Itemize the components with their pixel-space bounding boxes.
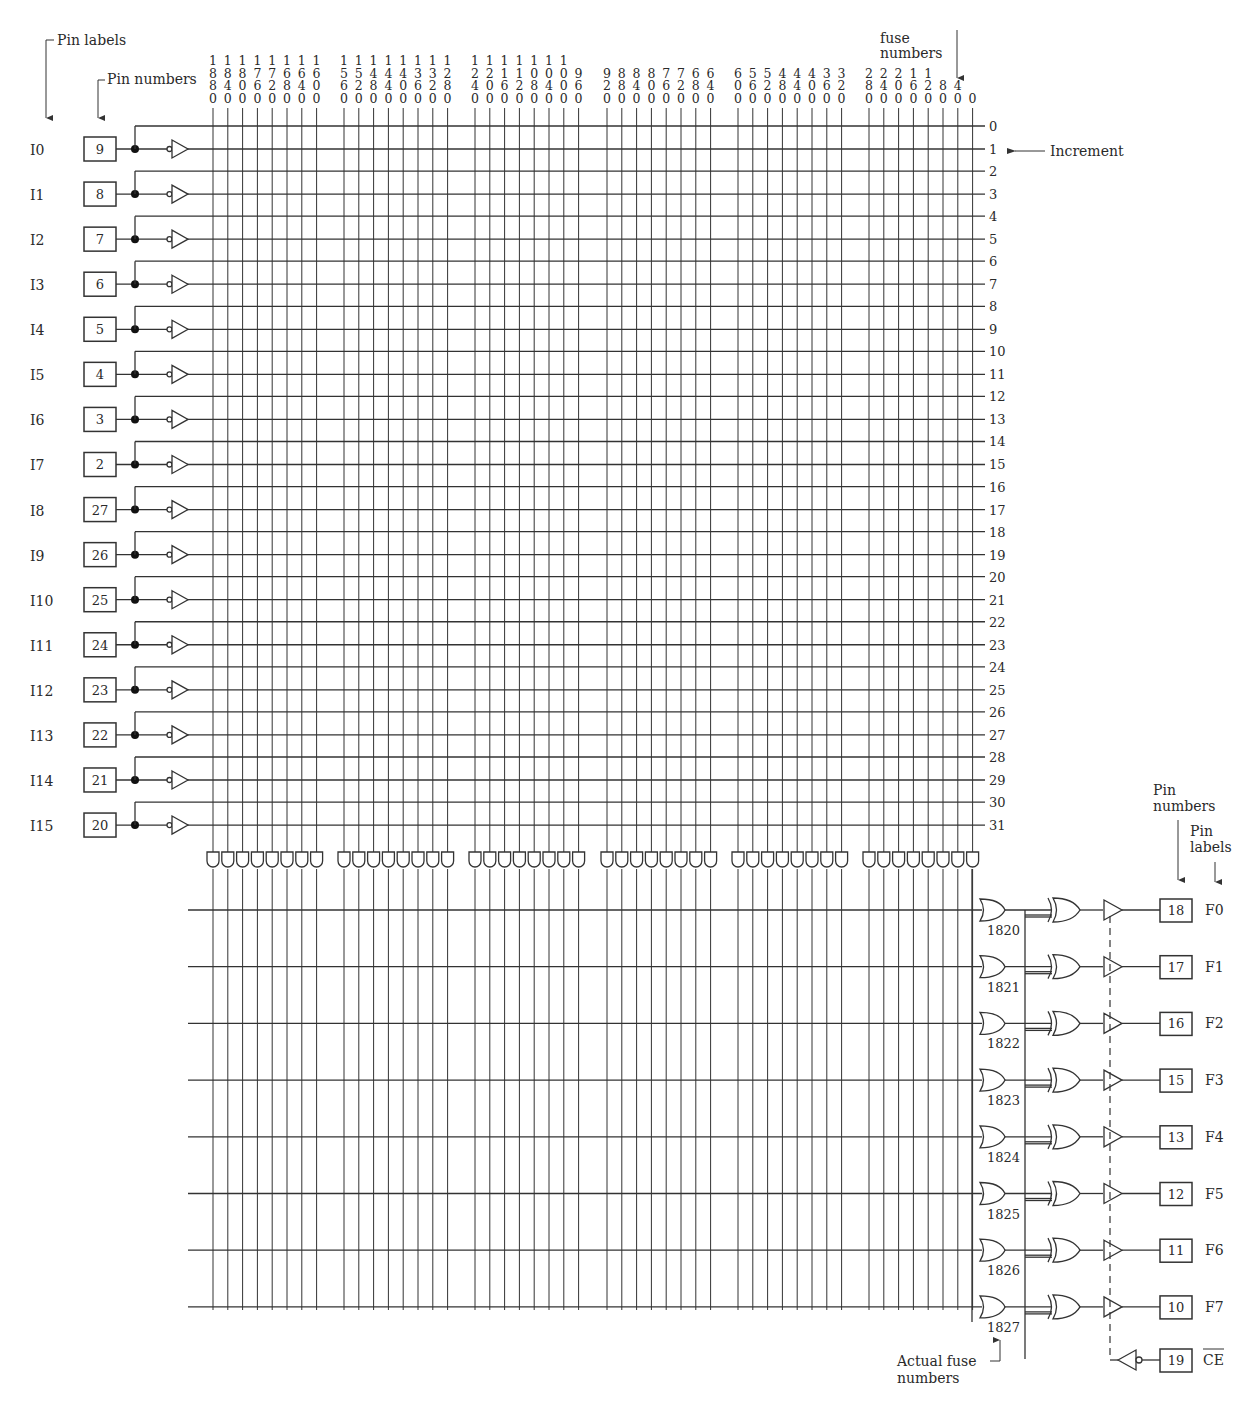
column-fuse-digit: 0 <box>239 91 247 106</box>
input-pin-row: I926 <box>30 532 188 567</box>
column-fuse-digit: 0 <box>209 91 217 106</box>
output-macrocell: 182315F3 <box>980 1068 1224 1108</box>
output-macrocell: 182117F1 <box>980 955 1224 995</box>
row-increment-label: 26 <box>989 705 1006 720</box>
xor-gate-icon <box>1053 898 1080 922</box>
row-increment-label: 8 <box>989 299 997 314</box>
input-pin-row: I27 <box>30 216 188 251</box>
buffer-triangle-icon <box>172 636 188 654</box>
column-fuse-label: 280280 <box>865 66 873 106</box>
tristate-buffer-icon <box>1104 1184 1122 1204</box>
input-pin-label: I7 <box>30 457 44 473</box>
input-pin-row: I54 <box>30 351 188 386</box>
column-fuse-digit: 0 <box>399 91 407 106</box>
column-fuse-label: 200200 <box>895 66 903 106</box>
and-gate-icon <box>952 852 964 867</box>
tristate-buffer-icon <box>1104 1240 1122 1260</box>
row-increment-label: 12 <box>989 389 1006 404</box>
inverter-bubble-icon <box>167 507 172 512</box>
actual-fuse-caption-line1: Actual fuse <box>896 1353 977 1369</box>
input-pin-row: I1322 <box>30 712 188 747</box>
column-fuse-numbers: 1880188018401840180018001760176017201720… <box>209 53 977 106</box>
or-fuse-number: 1825 <box>987 1207 1020 1222</box>
or-fuse-number: 1827 <box>987 1320 1020 1335</box>
column-fuse-digit: 0 <box>283 91 291 106</box>
and-gate-row <box>207 852 979 867</box>
output-pin-label: F2 <box>1205 1015 1224 1031</box>
and-gate-icon <box>705 852 717 867</box>
buffer-triangle-icon <box>172 816 188 834</box>
column-fuse-label: 400400 <box>808 66 816 106</box>
buffer-triangle-icon <box>172 365 188 383</box>
input-pin-label: I2 <box>30 232 44 248</box>
input-pin-row: I1025 <box>30 577 188 612</box>
and-gate-icon <box>806 852 818 867</box>
or-gate-icon <box>980 1069 1005 1091</box>
and-gate-icon <box>207 852 219 867</box>
input-pin-number: 4 <box>96 367 104 382</box>
column-fuse-digit: 0 <box>618 91 626 106</box>
column-fuse-label: 13201320 <box>429 53 437 106</box>
inverter-bubble-icon <box>167 823 172 828</box>
column-fuse-label: 18401840 <box>224 53 232 106</box>
column-fuse-label: 14001400 <box>399 53 407 106</box>
output-section: 182018F0182117F1182216F2182315F3182413F4… <box>972 869 1224 1372</box>
row-increment-label: 20 <box>989 570 1006 585</box>
column-fuse-digit: 0 <box>575 91 583 106</box>
buffer-triangle-icon <box>172 140 188 158</box>
input-pin-number: 23 <box>92 683 109 698</box>
column-fuse-label: 520520 <box>764 66 772 106</box>
and-gate-icon <box>631 852 643 867</box>
buffer-triangle-icon <box>172 681 188 699</box>
pin-labels-arrow-icon <box>46 40 54 118</box>
and-gate-icon <box>821 852 833 867</box>
column-fuse-label: 160160 <box>909 66 917 106</box>
output-pin-number: 13 <box>1168 1130 1185 1145</box>
and-gate-icon <box>573 852 585 867</box>
column-fuse-digit: 0 <box>384 91 392 106</box>
input-pin-row: I1223 <box>30 667 188 702</box>
actual-fuse-caption-line2: numbers <box>897 1370 959 1386</box>
input-pin-number: 3 <box>96 412 104 427</box>
inverter-bubble-icon <box>167 417 172 422</box>
ce-buffer-icon <box>1118 1350 1136 1370</box>
buffer-triangle-icon <box>172 501 188 519</box>
column-fuse-digit: 0 <box>355 91 363 106</box>
tristate-buffer-icon <box>1104 1297 1122 1317</box>
column-fuse-label: 320320 <box>838 66 846 106</box>
column-fuse-label: 11201120 <box>515 53 523 106</box>
column-fuse-label: 800800 <box>647 66 655 106</box>
column-fuse-label: 440440 <box>793 66 801 106</box>
row-increment-label: 4 <box>989 209 997 224</box>
output-pin-number: 15 <box>1168 1073 1185 1088</box>
output-pin-label: F7 <box>1205 1299 1224 1315</box>
and-gate-icon <box>791 852 803 867</box>
output-macrocell: 182413F4 <box>980 1125 1224 1165</box>
and-gate-icon <box>528 852 540 867</box>
input-pin-row: I45 <box>30 306 188 341</box>
input-section: I09I18I27I36I45I54I63I72I827I926I1025I11… <box>30 126 188 837</box>
column-fuse-digit: 0 <box>677 91 685 106</box>
inverter-bubble-icon <box>167 372 172 377</box>
pin-numbers-caption: Pin numbers <box>107 71 197 87</box>
input-pin-row: I1124 <box>30 622 188 657</box>
input-pin-label: I8 <box>30 503 44 519</box>
input-pin-number: 25 <box>92 593 109 608</box>
buffer-triangle-icon <box>172 771 188 789</box>
column-fuse-label: 240240 <box>880 66 888 106</box>
fuse-numbers-caption-line2: numbers <box>880 45 942 61</box>
input-pin-row: I72 <box>30 441 188 476</box>
column-fuse-label: 560560 <box>749 66 757 106</box>
output-pin-number: 16 <box>1168 1016 1185 1031</box>
product-term-columns <box>213 108 973 1310</box>
and-gate-icon <box>469 852 481 867</box>
inverter-bubble-icon <box>167 147 172 152</box>
buffer-triangle-icon <box>172 591 188 609</box>
and-gate-icon <box>878 852 890 867</box>
input-pin-row: I827 <box>30 487 188 522</box>
column-fuse-digit: 0 <box>969 91 977 106</box>
actual-fuse-numbers-annotation: Actual fuse numbers <box>896 1340 1000 1386</box>
inverter-bubble-icon <box>167 777 172 782</box>
column-fuse-label: 720720 <box>677 66 685 106</box>
input-pin-number: 9 <box>96 142 104 157</box>
